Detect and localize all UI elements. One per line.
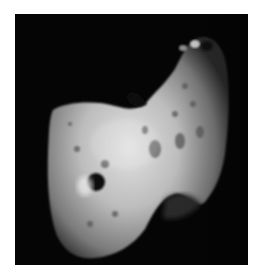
- asteroid-photo: [15, 14, 248, 265]
- asteroid-illustration: [15, 14, 248, 265]
